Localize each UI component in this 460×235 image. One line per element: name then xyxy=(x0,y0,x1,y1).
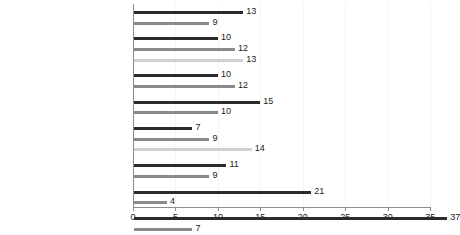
bar-value-label: 12 xyxy=(238,80,248,90)
bar xyxy=(134,191,311,194)
bar xyxy=(134,74,218,77)
bar xyxy=(134,148,252,151)
bar-value-label: 10 xyxy=(221,69,231,79)
gridline xyxy=(260,4,261,207)
bar-value-label: 9 xyxy=(212,17,217,27)
x-axis-tick xyxy=(175,207,176,211)
x-axis-tick xyxy=(388,207,389,211)
bar-value-label: 10 xyxy=(221,106,231,116)
gridline xyxy=(388,4,389,207)
bar xyxy=(134,111,218,114)
x-axis-tick xyxy=(303,207,304,211)
gridline xyxy=(430,4,431,207)
bar-value-label: 37 xyxy=(450,212,460,222)
x-axis-tick xyxy=(430,207,431,211)
bar xyxy=(134,37,218,40)
bar-value-label: 9 xyxy=(212,170,217,180)
bar-value-label: 13 xyxy=(246,6,256,16)
x-axis-line xyxy=(133,207,431,208)
bar xyxy=(134,138,209,141)
x-axis-tick xyxy=(218,207,219,211)
x-axis-tick xyxy=(345,207,346,211)
bar xyxy=(134,48,235,51)
gridline xyxy=(218,4,219,207)
bar-value-label: 10 xyxy=(221,32,231,42)
bar xyxy=(134,164,226,167)
bar xyxy=(134,22,209,25)
bar xyxy=(134,59,243,62)
bar-value-label: 14 xyxy=(255,143,265,153)
bar xyxy=(134,101,260,104)
bar xyxy=(134,11,243,14)
bar-value-label: 9 xyxy=(212,133,217,143)
x-axis-tick xyxy=(133,207,134,211)
bar-value-label: 13 xyxy=(246,54,256,64)
x-axis-tick xyxy=(260,207,261,211)
bar xyxy=(134,201,167,204)
bar-value-label: 7 xyxy=(195,223,200,233)
bar xyxy=(134,175,209,178)
bar-value-label: 11 xyxy=(229,159,238,169)
bar-value-label: 4 xyxy=(170,196,175,206)
bar-value-label: 21 xyxy=(314,186,324,196)
bar xyxy=(134,217,447,220)
gridline xyxy=(303,4,304,207)
gridline xyxy=(345,4,346,207)
bar-value-label: 15 xyxy=(263,96,273,106)
bar xyxy=(134,127,192,130)
bar-value-label: 12 xyxy=(238,43,248,53)
bar-value-label: 7 xyxy=(195,122,200,132)
bar xyxy=(134,85,235,88)
bar xyxy=(134,228,192,231)
